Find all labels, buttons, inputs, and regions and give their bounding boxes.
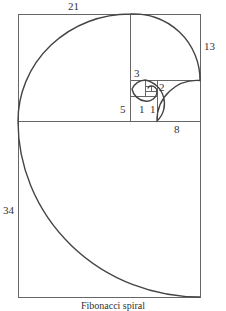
label-3: 3 [134, 68, 140, 79]
fibonacci-diagram [0, 0, 226, 311]
label-8: 8 [174, 124, 180, 135]
label-1b: 1 [150, 104, 156, 115]
label-1a: 1 [139, 104, 145, 115]
outer-rectangle [19, 15, 201, 298]
label-5: 5 [120, 104, 126, 115]
label-21: 21 [68, 1, 79, 12]
golden-spiral [18, 14, 200, 297]
label-2: 2 [159, 82, 165, 93]
label-13: 13 [204, 41, 215, 52]
label-34: 34 [3, 205, 14, 216]
diagram-caption: Fibonacci spiral [0, 301, 226, 311]
